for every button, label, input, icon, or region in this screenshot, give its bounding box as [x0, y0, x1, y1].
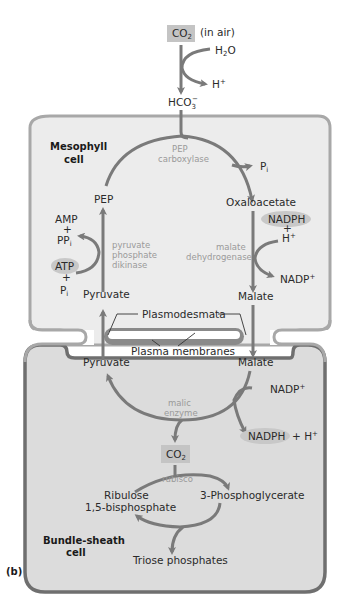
ppdk-label-3: dikinase [112, 260, 147, 270]
malate-bundle-label: Malate [238, 356, 273, 368]
plasmodesma-lumen [108, 331, 240, 339]
ppi-label: PPi [57, 234, 72, 248]
ribulose-label-1: Ribulose [104, 489, 149, 501]
pyruvate-mesophyll-label: Pyruvate [83, 288, 130, 300]
bundle-sheath-cell-label-2: cell [66, 547, 86, 558]
pep-carboxylase-label-1: PEP [172, 144, 188, 154]
plasma-membranes-label: Plasma membranes [131, 345, 235, 357]
malate-dh-label-1: malate [216, 242, 246, 252]
mesophyll-cell-label: Mesophyll [50, 141, 107, 152]
h2o-label: H2O [215, 44, 236, 58]
pi-release-arrow [232, 165, 250, 167]
ppdk-label-2: phosphate [112, 250, 157, 260]
h-plus-label: H+ [212, 78, 226, 90]
mesophyll-cell-label-2: cell [64, 154, 84, 165]
ribulose-label-2: 1,5-bisphosphate [85, 501, 176, 513]
triose-phosphates-label: Triose phosphates [132, 554, 228, 566]
h2o-in-h-out-arrow [182, 49, 210, 84]
in-air-note: (in air) [200, 26, 235, 38]
oxaloacetate-label: Oxaloacetate [226, 196, 296, 208]
pep-label: PEP [94, 193, 113, 205]
plus-atp: + [62, 271, 71, 283]
c4-pathway-diagram: CO2 (in air) H2O H+ HCO3− Mesophyll cell… [0, 0, 354, 616]
nadph-bundle-label: NADPH [248, 430, 285, 442]
bundle-sheath-cell-label: Bundle-sheath [43, 535, 125, 546]
hco3-label: HCO3− [168, 95, 198, 111]
pep-carboxylase-label-2: carboxylase [158, 154, 209, 164]
figure-label: (b) [6, 566, 22, 577]
ppdk-label-1: pyruvate [112, 240, 150, 250]
malic-enzyme-label-2: enzyme [164, 408, 198, 418]
malate-dh-label-2: dehydrogenase [186, 252, 252, 262]
rubisco-label: rubisco [162, 474, 193, 484]
pyruvate-bundle-label: Pyruvate [83, 356, 130, 368]
plasmodesmata-label: Plasmodesmata [142, 308, 226, 320]
malate-mesophyll-label: Malate [238, 290, 273, 302]
malic-enzyme-label-1: malic [168, 398, 191, 408]
pga-label: 3-Phosphoglycerate [200, 489, 304, 501]
